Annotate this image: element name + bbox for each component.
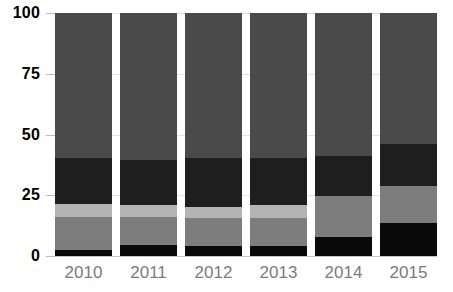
bar-segment[interactable] bbox=[185, 207, 242, 218]
bar-segment[interactable] bbox=[185, 218, 242, 246]
bar-segment[interactable] bbox=[120, 245, 177, 256]
bar-column[interactable] bbox=[55, 13, 112, 256]
bar-segment[interactable] bbox=[315, 237, 372, 256]
x-tick-label: 2012 bbox=[185, 262, 242, 285]
bar-segment[interactable] bbox=[185, 13, 242, 158]
x-tick-label: 2014 bbox=[315, 262, 372, 285]
bar-segment[interactable] bbox=[55, 250, 112, 256]
bar-column[interactable] bbox=[120, 13, 177, 256]
bar-segment[interactable] bbox=[380, 13, 437, 144]
y-tick-label-75: 75 bbox=[0, 66, 40, 82]
bar-column[interactable] bbox=[380, 13, 437, 256]
bar-segment[interactable] bbox=[380, 186, 437, 224]
y-tick-label-100: 100 bbox=[0, 5, 40, 21]
bar-segment[interactable] bbox=[120, 217, 177, 245]
bar-segment[interactable] bbox=[55, 217, 112, 250]
x-tick-label: 2010 bbox=[55, 262, 112, 285]
bar-segment[interactable] bbox=[185, 246, 242, 256]
y-tick-label-0: 0 bbox=[0, 248, 40, 264]
stacked-bar-chart: 100 75 50 25 0 201020112012201320142015 bbox=[0, 0, 453, 292]
y-tick-mark-25 bbox=[46, 195, 55, 196]
bar-segment[interactable] bbox=[185, 158, 242, 208]
bar-segment[interactable] bbox=[120, 160, 177, 205]
bar-segment[interactable] bbox=[380, 144, 437, 185]
bar-column[interactable] bbox=[250, 13, 307, 256]
bar-segment[interactable] bbox=[315, 156, 372, 196]
y-tick-label-50: 50 bbox=[0, 127, 40, 143]
x-axis: 201020112012201320142015 bbox=[55, 262, 437, 288]
x-tick-label: 2011 bbox=[120, 262, 177, 285]
bar-segment[interactable] bbox=[250, 246, 307, 256]
bar-segment[interactable] bbox=[120, 205, 177, 217]
x-tick-label: 2013 bbox=[250, 262, 307, 285]
bar-segment[interactable] bbox=[55, 204, 112, 217]
bar-segment[interactable] bbox=[315, 196, 372, 236]
y-axis: 100 75 50 25 0 bbox=[0, 0, 48, 292]
y-tick-label-25: 25 bbox=[0, 187, 40, 203]
bar-segment[interactable] bbox=[55, 158, 112, 204]
bar-segment[interactable] bbox=[250, 218, 307, 246]
bar-segment[interactable] bbox=[315, 13, 372, 156]
bar-segment[interactable] bbox=[120, 13, 177, 160]
plot-area bbox=[55, 13, 437, 256]
bar-segment[interactable] bbox=[250, 158, 307, 205]
bar-column[interactable] bbox=[185, 13, 242, 256]
y-tick-mark-50 bbox=[46, 135, 55, 136]
bar-segment[interactable] bbox=[380, 223, 437, 256]
x-tick-label: 2015 bbox=[380, 262, 437, 285]
y-tick-mark-75 bbox=[46, 74, 55, 75]
bar-segment[interactable] bbox=[55, 13, 112, 158]
y-tick-mark-0 bbox=[46, 256, 55, 257]
y-tick-mark-100 bbox=[46, 13, 55, 14]
bar-segment[interactable] bbox=[250, 13, 307, 158]
gridline-0 bbox=[55, 256, 437, 257]
bar-column[interactable] bbox=[315, 13, 372, 256]
bar-segment[interactable] bbox=[250, 205, 307, 218]
